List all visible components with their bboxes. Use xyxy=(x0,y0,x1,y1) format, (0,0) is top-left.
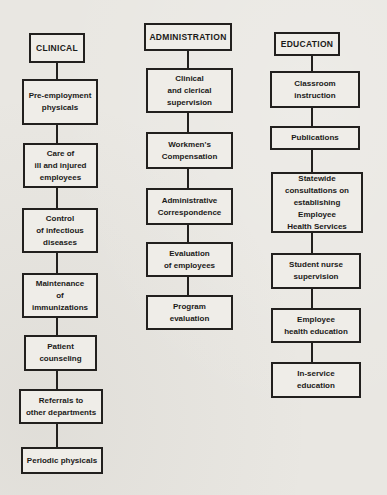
box-control-of-infectious-diseases: Control of infectious diseases xyxy=(22,208,98,253)
box-publications: Publications xyxy=(270,126,360,150)
box-administrative-correspondence: Administrative Correspondence xyxy=(146,188,233,225)
clinical-header-box: CLINICAL xyxy=(29,33,85,63)
administration-header-box: ADMINISTRATION xyxy=(144,23,232,51)
box-in-service-education: In-service education xyxy=(271,362,361,398)
box-clinical-and-clerical-supervision: Clinical and clerical supervision xyxy=(146,68,233,113)
box-classroom-instruction: Classroom instruction xyxy=(270,71,360,108)
box-patient-counseling: Patient counseling xyxy=(24,335,97,371)
flowchart-page: CLINICAL Pre-employment physicals Care o… xyxy=(0,0,387,495)
box-employee-health-education: Employee health education xyxy=(271,308,361,343)
box-program-evaluation: Program evaluation xyxy=(146,295,233,330)
box-referrals-to-other-departments: Referrals to other departments xyxy=(19,389,103,424)
box-periodic-physicals: Periodic physicals xyxy=(21,447,103,474)
education-header-box: EDUCATION xyxy=(274,32,340,56)
box-care-of-ill-and-injured-employees: Care of ill and injured employees xyxy=(23,143,98,188)
box-statewide-consultations: Statewide consultations on establishing … xyxy=(271,172,363,233)
box-workmens-compensation: Workmen's Compensation xyxy=(146,132,233,169)
box-maintenance-of-immunizations: Maintenance of immunizations xyxy=(22,273,98,318)
box-student-nurse-supervision: Student nurse supervision xyxy=(271,253,361,289)
box-evaluation-of-employees: Evaluation of employees xyxy=(146,242,233,277)
box-pre-employment-physicals: Pre-employment physicals xyxy=(22,79,98,125)
